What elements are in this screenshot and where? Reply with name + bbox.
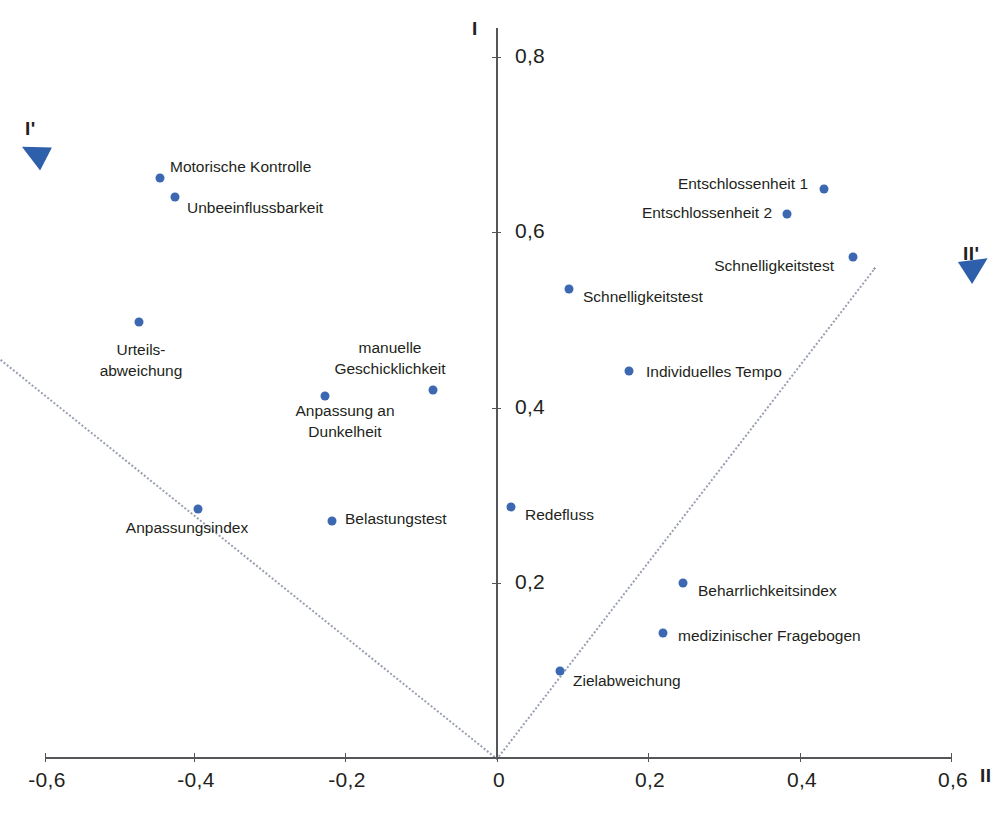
data-point	[849, 253, 858, 262]
data-point-label: Urteils- abweichung	[100, 340, 183, 382]
y-rotated-axis-title: I'	[25, 118, 36, 140]
y-tick-label: 0,2	[515, 570, 545, 594]
x-tick-mark	[648, 753, 649, 762]
y-tick-label: 0,4	[515, 395, 545, 419]
x-tick-label: -0,4	[177, 768, 214, 792]
data-point-label: Entschlossenheit 1	[678, 174, 808, 195]
data-point-label: Zielabweichung	[573, 671, 681, 692]
data-point-label: Individuelles Tempo	[646, 362, 782, 383]
data-point	[328, 517, 337, 526]
data-point-label: manuelle Geschicklichkeit	[334, 338, 445, 380]
data-point	[135, 318, 144, 327]
data-point	[321, 392, 330, 401]
data-point	[565, 285, 574, 294]
data-point	[679, 579, 688, 588]
data-point	[156, 174, 165, 183]
data-point	[659, 629, 668, 638]
x-tick-label: -0,2	[328, 768, 365, 792]
data-point	[507, 503, 516, 512]
y-tick-mark	[492, 408, 501, 409]
data-point-label: Unbeeinflussbarkeit	[187, 198, 323, 219]
x-tick-label: 0,4	[787, 768, 817, 792]
x-tick-mark	[951, 753, 952, 762]
data-point-label: Beharrlichkeitsindex	[698, 581, 837, 602]
x-tick-mark	[45, 753, 46, 762]
x-tick-mark	[194, 753, 195, 762]
data-point	[171, 193, 180, 202]
y-tick-mark	[492, 583, 501, 584]
x-tick-label: 0	[493, 768, 505, 792]
data-point-label: Schnelligkeitstest	[583, 287, 703, 308]
x-tick-label: 0,2	[635, 768, 665, 792]
y-axis-title: I	[472, 18, 478, 40]
scatter-plot-canvas: -0,6 -0,4 -0,2 0 0,2 0,4 0,6 0,2 0,4 0,6…	[0, 0, 1001, 824]
data-point	[820, 185, 829, 194]
x-axis-title: II	[980, 765, 992, 787]
data-point	[783, 210, 792, 219]
arrow-i-prime	[16, 135, 52, 170]
y-axis-line	[496, 28, 498, 759]
x-rotated-axis-title: II'	[963, 243, 980, 265]
y-tick-label: 0,8	[515, 44, 545, 68]
data-point-label: Redefluss	[525, 505, 594, 526]
x-tick-label: -0,6	[28, 768, 65, 792]
data-point-label: Belastungstest	[345, 509, 447, 530]
data-point-label: Anpassung an Dunkelheit	[295, 401, 394, 443]
data-point-label: Motorische Kontrolle	[170, 157, 311, 178]
y-tick-label: 0,6	[515, 219, 545, 243]
x-tick-mark	[345, 753, 346, 762]
data-point	[625, 367, 634, 376]
y-tick-mark	[492, 57, 501, 58]
data-point	[556, 667, 565, 676]
x-tick-mark	[497, 753, 498, 762]
y-tick-mark	[492, 232, 501, 233]
data-point-label: Anpassungsindex	[126, 518, 248, 539]
data-point	[194, 505, 203, 514]
data-point	[429, 386, 438, 395]
data-point-label: Entschlossenheit 2	[642, 203, 772, 224]
x-tick-label: 0,6	[938, 768, 968, 792]
x-tick-mark	[800, 753, 801, 762]
data-point-label: medizinischer Fragebogen	[678, 626, 861, 647]
data-point-label: Schnelligkeitstest	[714, 256, 834, 277]
